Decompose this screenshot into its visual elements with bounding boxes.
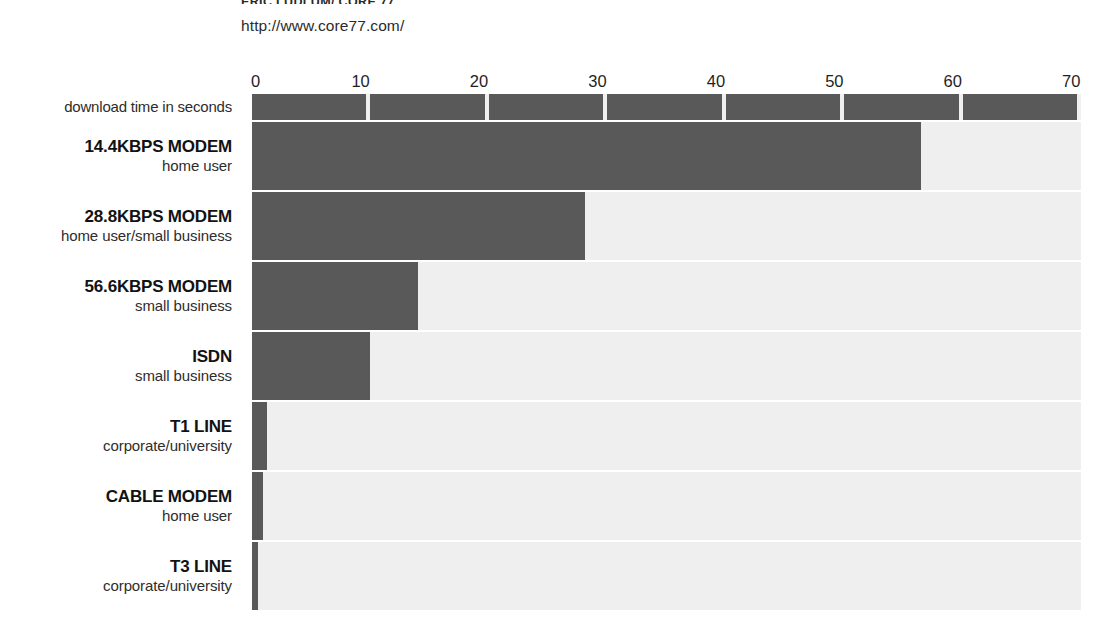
row-label-title: 14.4KBPS MODEM (0, 137, 232, 157)
credit-line: ERIC LUDLUM/ CORE 77 (241, 0, 941, 4)
row-label-title: 56.6KBPS MODEM (0, 277, 232, 297)
chart-row: T1 LINEcorporate/university (0, 402, 1120, 470)
row-label-sublabel: small business (0, 297, 232, 315)
source-url: http://www.core77.com/ (241, 8, 941, 36)
axis-ruler-segment (370, 94, 484, 120)
axis-tick-labels: 010203040506070 (0, 72, 1120, 94)
bar-track (252, 332, 1081, 400)
axis-ruler-segment (489, 94, 603, 120)
axis-ruler-segment (963, 94, 1077, 120)
row-label: 56.6KBPS MODEMsmall business (0, 277, 232, 315)
row-label-sublabel: home user (0, 157, 232, 175)
axis-tick-30: 30 (588, 72, 606, 90)
bar-track (252, 122, 1081, 190)
axis-ruler-segment (726, 94, 840, 120)
row-label-title: 28.8KBPS MODEM (0, 207, 232, 227)
axis-ruler-segment (844, 94, 958, 120)
bar (252, 192, 585, 260)
row-label-sublabel: corporate/university (0, 577, 232, 595)
chart-row: 14.4KBPS MODEMhome user (0, 122, 1120, 190)
bar (252, 542, 258, 610)
chart-row: T3 LINEcorporate/university (0, 542, 1120, 610)
row-label: CABLE MODEMhome user (0, 487, 232, 525)
axis-ruler-segment (252, 94, 366, 120)
row-label-title: T3 LINE (0, 557, 232, 577)
row-label-title: CABLE MODEM (0, 487, 232, 507)
axis-tick-70: 70 (1062, 72, 1080, 90)
bar (252, 472, 263, 540)
bar (252, 262, 418, 330)
axis-ruler-segment (607, 94, 721, 120)
bar-track (252, 192, 1081, 260)
row-label: ISDNsmall business (0, 347, 232, 385)
row-label-sublabel: corporate/university (0, 437, 232, 455)
bar-track (252, 402, 1081, 470)
chart-row: CABLE MODEMhome user (0, 472, 1120, 540)
axis-label: download time in seconds (0, 98, 232, 116)
axis-tick-10: 10 (351, 72, 369, 90)
axis-ruler-track (252, 94, 1081, 120)
row-label: T3 LINEcorporate/university (0, 557, 232, 595)
bar (252, 122, 921, 190)
axis-ruler-row: download time in seconds (0, 94, 1120, 120)
chart-rows: 14.4KBPS MODEMhome user28.8KBPS MODEMhom… (0, 122, 1120, 610)
bar (252, 402, 267, 470)
row-label: 28.8KBPS MODEMhome user/small business (0, 207, 232, 245)
row-label-sublabel: home user (0, 507, 232, 525)
row-label: 14.4KBPS MODEMhome user (0, 137, 232, 175)
bar-track (252, 262, 1081, 330)
bar (252, 332, 370, 400)
row-label-title: ISDN (0, 347, 232, 367)
bar-track (252, 472, 1081, 540)
row-label-sublabel: home user/small business (0, 227, 232, 245)
axis-tick-40: 40 (707, 72, 725, 90)
chart-row: 56.6KBPS MODEMsmall business (0, 262, 1120, 330)
axis-tick-0: 0 (251, 72, 260, 90)
row-label: T1 LINEcorporate/university (0, 417, 232, 455)
chart-row: ISDNsmall business (0, 332, 1120, 400)
chart-header: ERIC LUDLUM/ CORE 77 http://www.core77.c… (241, 0, 941, 36)
axis-tick-60: 60 (944, 72, 962, 90)
chart-row: 28.8KBPS MODEMhome user/small business (0, 192, 1120, 260)
axis-tick-50: 50 (825, 72, 843, 90)
row-label-sublabel: small business (0, 367, 232, 385)
axis-tick-20: 20 (470, 72, 488, 90)
bar-track (252, 542, 1081, 610)
row-label-title: T1 LINE (0, 417, 232, 437)
bandwidth-download-time-chart: 010203040506070 download time in seconds… (0, 72, 1120, 612)
